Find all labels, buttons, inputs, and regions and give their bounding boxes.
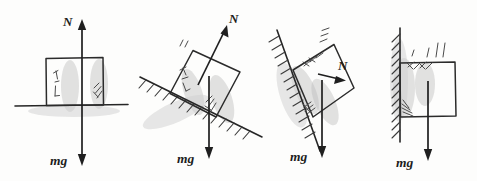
weight-label: mg (396, 155, 414, 170)
figure-canvas: N mg (0, 0, 477, 181)
normal-force-arrow (78, 19, 86, 105)
normal-force-label: N (228, 11, 239, 26)
weight-label: mg (290, 149, 308, 164)
physics-figure: N mg (0, 0, 477, 181)
sketch-marks-top (303, 53, 323, 66)
weight-label: mg (50, 153, 68, 168)
corner-tick-marks (412, 43, 445, 57)
normal-force-label: N (62, 14, 73, 29)
corner-tick-marks (320, 28, 329, 42)
weight-label: mg (177, 151, 195, 166)
sketch-marks-left (54, 71, 60, 97)
normal-force-label: N (337, 58, 348, 73)
corner-tick-marks (180, 40, 188, 47)
